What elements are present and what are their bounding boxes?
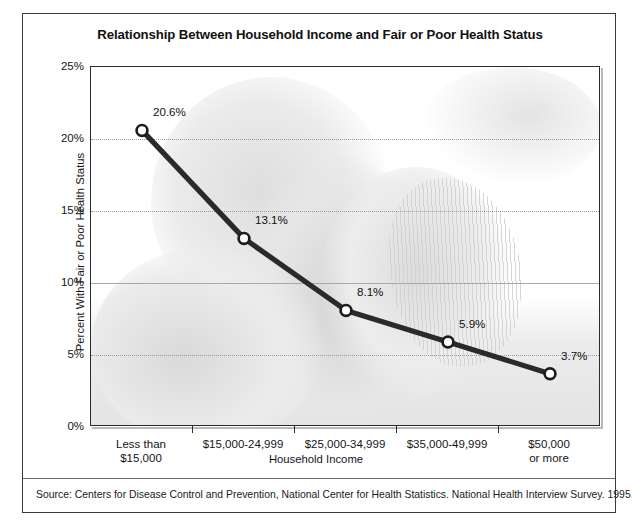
y-tick-label-0: 0% (44, 420, 84, 432)
data-point-label-1: 13.1% (255, 213, 288, 226)
x-axis-tick-1 (192, 426, 193, 433)
y-tick-label-5: 5% (44, 348, 84, 360)
data-series-layer (91, 67, 600, 426)
x-axis-tick-3 (396, 426, 397, 433)
data-point-marker-4 (545, 368, 556, 379)
data-point-marker-2 (341, 305, 352, 316)
data-point-label-4: 3.7% (561, 349, 587, 362)
y-tick-label-25: 25% (44, 60, 84, 72)
series-markers (137, 125, 556, 379)
x-axis-title: Household Income (0, 453, 632, 465)
data-point-marker-3 (443, 337, 454, 348)
chart-figure: Relationship Between Household Income an… (0, 0, 632, 528)
y-tick-label-20: 20% (44, 132, 84, 144)
footer-divider (23, 478, 615, 479)
source-note: Source: Centers for Disease Control and … (36, 489, 616, 500)
x-tick-label-line: $50,000 (484, 437, 614, 451)
y-tick-label-10: 10% (44, 276, 84, 288)
x-axis-tick-4 (498, 426, 499, 433)
plot-area (90, 66, 600, 426)
data-point-marker-1 (239, 233, 250, 244)
series-line-health-status (142, 130, 550, 373)
data-point-label-3: 5.9% (459, 317, 485, 330)
data-point-marker-0 (137, 125, 148, 136)
y-tick-label-15: 15% (44, 204, 84, 216)
data-point-label-0: 20.6% (153, 105, 186, 118)
x-axis-tick-2 (294, 426, 295, 433)
data-point-label-2: 8.1% (357, 285, 383, 298)
chart-title: Relationship Between Household Income an… (30, 27, 610, 42)
